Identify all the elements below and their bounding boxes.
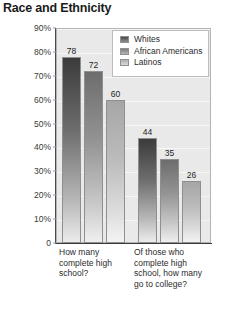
x-axis-line: [55, 243, 212, 244]
legend-item[interactable]: Latinos: [120, 57, 208, 68]
x-axis-category-label: How many complete high school?: [59, 247, 129, 279]
page-title: Race and Ethnicity: [3, 1, 111, 15]
y-axis-tick-label: 50%: [34, 119, 51, 129]
x-axis-categories: How many complete high school?Of those w…: [56, 247, 213, 309]
y-axis-tick-label: 70%: [34, 71, 51, 81]
legend-item[interactable]: African Americans: [120, 46, 208, 57]
y-axis-tick-label: 90%: [34, 23, 51, 33]
legend-label: African Americans: [134, 46, 203, 57]
y-axis-tick-label: 0: [46, 238, 51, 248]
bar: [62, 57, 81, 243]
legend-label: Latinos: [134, 57, 161, 68]
chart-legend: WhitesAfrican AmericansLatinos: [112, 30, 209, 77]
legend-swatch-icon: [120, 59, 129, 66]
bar-chart-figure: 90%80%70%60%50%40%30%20%10%0 78726044352…: [26, 24, 212, 312]
y-axis-tick-label: 10%: [34, 214, 51, 224]
y-axis-tick-label: 20%: [34, 190, 51, 200]
bar-value-label: 60: [111, 89, 120, 99]
bar: [138, 138, 157, 243]
bar-value-label: 26: [187, 170, 196, 180]
bar: [160, 159, 179, 243]
legend-swatch-icon: [120, 36, 129, 43]
legend-label: Whites: [134, 34, 160, 45]
bar-value-label: 72: [89, 60, 98, 70]
y-axis: 90%80%70%60%50%40%30%20%10%0: [26, 28, 54, 243]
legend-item[interactable]: Whites: [120, 34, 208, 45]
bar-value-label: 78: [67, 46, 76, 56]
bar-value-label: 35: [165, 148, 174, 158]
x-axis-category-label: Of those who complete high school, how m…: [134, 247, 212, 289]
y-axis-tick-label: 40%: [34, 142, 51, 152]
bar: [182, 181, 201, 243]
bar: [106, 100, 125, 243]
legend-swatch-icon: [120, 48, 129, 55]
y-axis-tick-label: 60%: [34, 95, 51, 105]
bar: [84, 71, 103, 243]
y-axis-tick-label: 30%: [34, 166, 51, 176]
bar-value-label: 44: [143, 127, 152, 137]
y-axis-tick-label: 80%: [34, 47, 51, 57]
